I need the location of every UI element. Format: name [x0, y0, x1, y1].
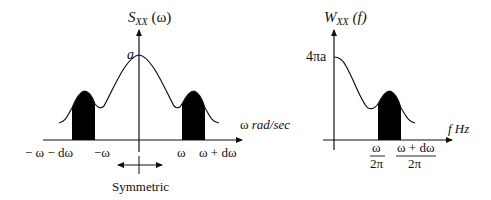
negative-band-fill — [72, 91, 95, 140]
tick-omega-plus-domega-over-2pi: ω + dω 2π — [396, 140, 436, 171]
peak-label-4pia: 4πa — [306, 49, 327, 64]
omega-axis-label: ω rad/sec — [240, 117, 290, 132]
tick-omega-over-2pi: ω 2π — [370, 140, 385, 171]
tick-neg-omega: −ω — [94, 145, 110, 160]
spectral-density-diagram: SXX (ω) a ω rad/sec − ω − dω −ω ω ω + dω… — [0, 0, 491, 200]
svg-text:ω: ω — [372, 140, 381, 155]
svg-text:2π: 2π — [370, 156, 384, 171]
svg-text:2π: 2π — [408, 156, 422, 171]
left-plot: SXX (ω) a ω rad/sec − ω − dω −ω ω ω + dω… — [25, 9, 290, 194]
tick-omega: ω — [177, 145, 186, 160]
tick-omega-plus-domega: ω + dω — [199, 145, 237, 160]
tick-neg-omega-minus-domega: − ω − dω — [25, 145, 73, 160]
svg-text:ω + dω: ω + dω — [397, 140, 435, 155]
f-axis-label: f Hz — [448, 121, 469, 136]
peak-label-a: a — [127, 47, 134, 62]
wxx-label: WXX (f) — [324, 9, 367, 27]
wxx-curve — [334, 57, 415, 123]
sxx-label: SXX (ω) — [128, 9, 171, 27]
right-plot: WXX (f) 4πa f Hz ω 2π ω + dω 2π — [306, 9, 469, 171]
symmetric-label: Symmetric — [112, 179, 169, 194]
